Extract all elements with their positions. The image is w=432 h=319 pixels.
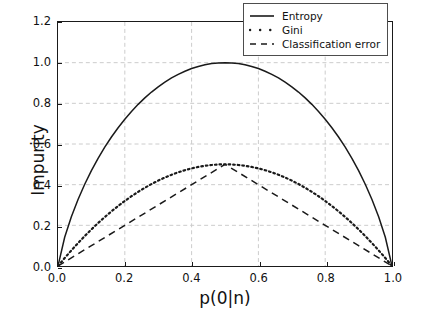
- legend-line-swatch: [249, 24, 275, 36]
- chart-figure: Impurity p(0|n) 0.00.20.40.60.81.01.2 0.…: [0, 0, 432, 319]
- x-tick-label: 0.6: [249, 271, 267, 285]
- legend-item[interactable]: Gini: [249, 23, 380, 36]
- x-tick-label: 0.0: [48, 271, 66, 285]
- y-tick-label: 0.0: [18, 260, 51, 274]
- x-tick-mark: [58, 262, 59, 266]
- x-tick-mark: [192, 262, 193, 266]
- legend-item[interactable]: Entropy: [249, 9, 380, 22]
- legend-line-swatch: [249, 38, 275, 50]
- chart-legend: EntropyGiniClassification error: [243, 3, 388, 56]
- legend-item-label: Entropy: [282, 10, 323, 22]
- y-tick-mark: [58, 22, 62, 23]
- y-tick-label: 1.0: [18, 55, 51, 69]
- x-tick-label: 0.8: [317, 271, 335, 285]
- legend-item-label: Classification error: [282, 38, 380, 50]
- series-line: [58, 164, 392, 266]
- x-tick-label: 0.2: [115, 271, 133, 285]
- y-tick-mark: [58, 145, 62, 146]
- y-tick-mark: [58, 104, 62, 105]
- x-tick-mark: [260, 262, 261, 266]
- x-tick-label: 0.4: [182, 271, 200, 285]
- x-tick-mark: [394, 262, 395, 266]
- y-tick-mark: [58, 186, 62, 187]
- y-tick-mark: [58, 63, 62, 64]
- curve-layer: [58, 22, 392, 266]
- legend-line-swatch: [249, 10, 275, 22]
- y-tick-label: 0.8: [18, 96, 51, 110]
- legend-item-label: Gini: [282, 24, 303, 36]
- x-axis-label: p(0|n): [57, 288, 393, 308]
- legend-item[interactable]: Classification error: [249, 37, 380, 50]
- y-tick-mark: [58, 268, 62, 269]
- y-tick-label: 0.2: [18, 219, 51, 233]
- y-tick-label: 0.6: [18, 137, 51, 151]
- series-line: [58, 164, 392, 266]
- y-tick-label: 1.2: [18, 14, 51, 28]
- y-tick-mark: [58, 227, 62, 228]
- x-tick-mark: [125, 262, 126, 266]
- plot-area: [57, 21, 393, 267]
- x-tick-label: 1.0: [384, 271, 402, 285]
- y-tick-label: 0.4: [18, 178, 51, 192]
- x-tick-mark: [327, 262, 328, 266]
